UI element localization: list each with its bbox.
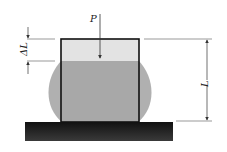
length-dimension bbox=[144, 39, 212, 121]
base-plate bbox=[25, 122, 173, 141]
compression-diagram: P ΔL L bbox=[0, 0, 227, 152]
force-label: P bbox=[89, 13, 97, 24]
length-label: L bbox=[199, 80, 210, 88]
specimen-body bbox=[61, 61, 139, 122]
delta-length-dimension bbox=[27, 27, 55, 74]
delta-length-label: ΔL bbox=[18, 42, 29, 57]
